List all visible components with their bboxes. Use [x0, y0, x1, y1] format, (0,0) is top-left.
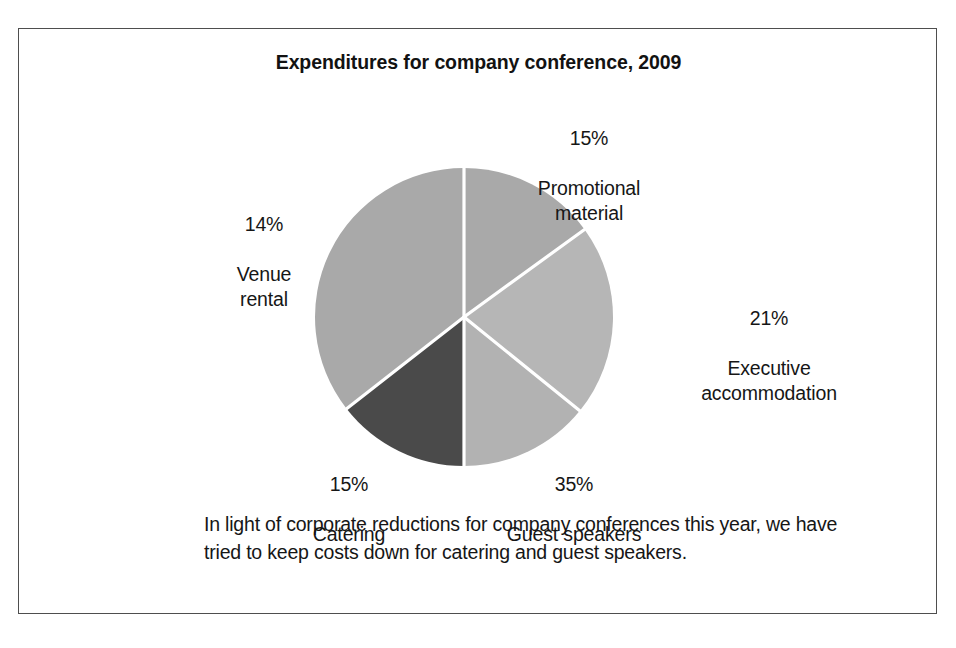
- figure-caption: In light of corporate reductions for com…: [204, 511, 844, 566]
- pie-label-catering-percent: 15%: [249, 472, 449, 497]
- pie-label-executive-accommodation: 21% Executive accommodation: [619, 281, 919, 431]
- pie-label-venue-rental-name: Venue rental: [174, 262, 354, 312]
- pie-label-executive-accommodation-percent: 21%: [619, 306, 919, 331]
- pie-label-venue-rental-percent: 14%: [174, 212, 354, 237]
- figure-frame: Expenditures for company conference, 200…: [18, 28, 937, 614]
- pie-label-promotional-material-name: Promotional material: [474, 176, 704, 226]
- pie-label-promotional-material-percent: 15%: [474, 126, 704, 151]
- pie-label-venue-rental: 14% Venue rental: [174, 187, 354, 337]
- pie-label-promotional-material: 15% Promotional material: [474, 101, 704, 251]
- pie-chart: 15% Promotional material 21% Executive a…: [19, 29, 938, 499]
- pie-label-guest-speakers-percent: 35%: [444, 472, 704, 497]
- pie-label-executive-accommodation-name: Executive accommodation: [619, 356, 919, 406]
